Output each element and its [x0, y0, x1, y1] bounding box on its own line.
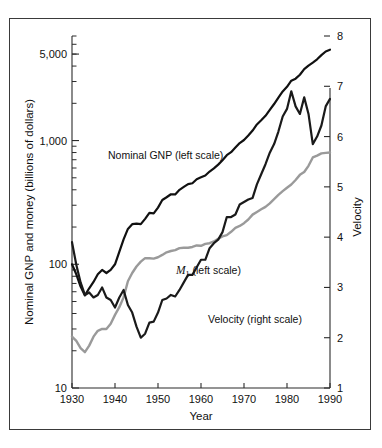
chart-canvas: 101001,0005,0001930194019501960197019801…	[0, 0, 382, 448]
y2-tick-label: 8	[337, 30, 343, 42]
series-line-1	[72, 50, 330, 296]
series-line-3	[72, 91, 330, 337]
y-tick-label: 1,000	[39, 135, 67, 147]
y2-tick-label: 3	[337, 281, 343, 293]
x-tick-label: 1980	[275, 393, 299, 405]
x-axis-title: Year	[189, 410, 212, 422]
y2-tick-label: 1	[337, 382, 343, 394]
series-annotation-m1: M1 (left scale)	[175, 264, 241, 279]
y-tick-label: 5,000	[39, 48, 67, 60]
series-annotation-1: Nominal GNP (left scale)	[108, 149, 223, 161]
y2-axis-title: Velocity	[351, 197, 363, 237]
x-tick-label: 1940	[103, 393, 127, 405]
x-tick-label: 1960	[189, 393, 213, 405]
series-layer	[72, 50, 330, 352]
series-annotation-3: Velocity (right scale)	[208, 313, 302, 325]
y-tick-label: 100	[49, 258, 67, 270]
x-tick-label: 1990	[318, 393, 342, 405]
y2-tick-label: 5	[337, 181, 343, 193]
figure-page: 101001,0005,0001930194019501960197019801…	[0, 0, 382, 448]
y2-tick-label: 6	[337, 131, 343, 143]
y-axis-title: Nominal GNP and money (billions of dolla…	[23, 99, 35, 325]
x-tick-label: 1930	[60, 393, 84, 405]
labels-layer: 101001,0005,0001930194019501960197019801…	[23, 30, 363, 422]
axes-layer	[72, 36, 330, 388]
x-tick-label: 1970	[232, 393, 256, 405]
x-tick-label: 1950	[146, 393, 170, 405]
y2-tick-label: 7	[337, 80, 343, 92]
y2-tick-label: 2	[337, 332, 343, 344]
y2-tick-label: 4	[337, 231, 343, 243]
